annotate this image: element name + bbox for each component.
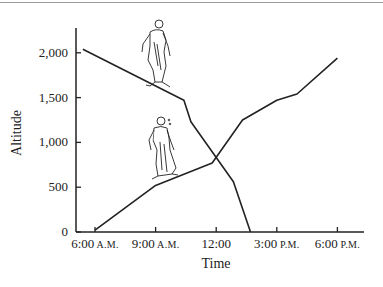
y-axis-label: Altitude	[9, 103, 25, 163]
x-axis-label: Time	[196, 256, 236, 272]
series-lines	[83, 49, 338, 232]
y-tick-label: 2,000	[10, 45, 68, 61]
series-line	[95, 58, 337, 230]
y-tick-label: 500	[10, 179, 68, 195]
axes	[76, 28, 364, 232]
x-tick-label: 6:00 P.M.	[297, 236, 377, 252]
monk-ascending-figure	[149, 117, 178, 179]
monk-descending-figure	[142, 20, 170, 87]
